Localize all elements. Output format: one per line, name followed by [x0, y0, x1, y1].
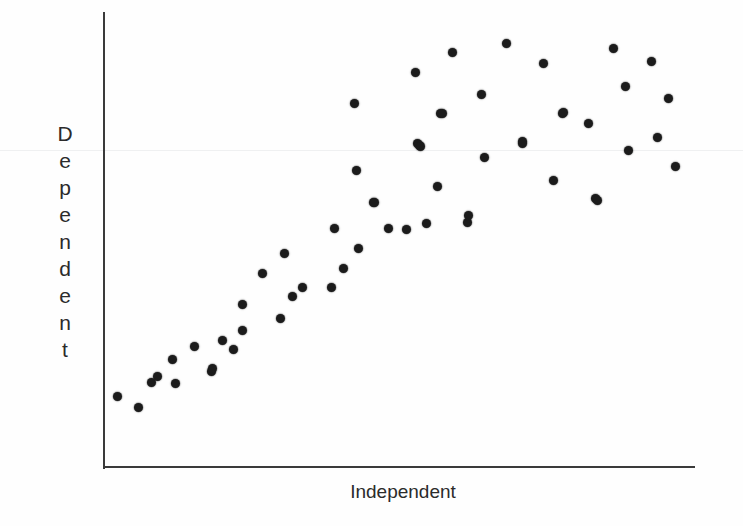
scatter-point	[463, 218, 472, 227]
scatter-point	[370, 198, 379, 207]
y-axis-label-letter: e	[48, 282, 82, 309]
y-axis-line	[103, 12, 105, 469]
scatter-point	[549, 176, 558, 185]
scatter-point	[653, 133, 662, 142]
scatter-point	[584, 119, 593, 128]
y-axis-label-letter: d	[48, 255, 82, 282]
scatter-point	[411, 68, 420, 77]
scatter-point	[416, 142, 425, 151]
scatter-point	[436, 109, 445, 118]
scatter-point	[559, 108, 568, 117]
scatter-point	[339, 264, 348, 273]
scatter-point	[422, 219, 431, 228]
scatter-point	[354, 244, 363, 253]
y-axis-label-letter: p	[48, 174, 82, 201]
scatter-point	[480, 153, 489, 162]
y-axis-label-letter: n	[48, 309, 82, 336]
scatter-point	[621, 82, 630, 91]
scatter-point	[327, 283, 336, 292]
scatter-point	[208, 364, 217, 373]
y-axis-label: D e p e n d e n t	[48, 120, 82, 363]
scatter-point	[464, 211, 473, 220]
scatter-point	[438, 109, 447, 118]
x-axis-label: Independent	[103, 481, 703, 503]
scatter-plot-figure: D e p e n d e n t Independent	[0, 0, 743, 526]
y-axis-label-letter: e	[48, 201, 82, 228]
scatter-point	[624, 146, 633, 155]
scatter-point	[288, 292, 297, 301]
scatter-point	[153, 372, 162, 381]
x-axis-line	[103, 466, 695, 468]
scatter-point	[591, 194, 600, 203]
scatter-point	[502, 39, 511, 48]
scatter-point	[647, 57, 656, 66]
y-axis-label-letter: e	[48, 147, 82, 174]
scatter-point	[609, 44, 618, 53]
scatter-point	[113, 392, 122, 401]
scatter-point	[276, 314, 285, 323]
scatter-point	[238, 300, 247, 309]
scatter-point	[415, 141, 424, 150]
scatter-point	[258, 269, 267, 278]
scatter-point	[352, 166, 361, 175]
scatter-point	[593, 196, 602, 205]
scatter-point	[330, 224, 339, 233]
scatter-point	[168, 355, 177, 364]
scatter-point	[369, 198, 378, 207]
y-axis-label-letter: D	[48, 120, 82, 147]
scatter-point	[413, 139, 422, 148]
scatter-point	[350, 99, 359, 108]
scatter-point	[384, 224, 393, 233]
scatter-point	[229, 345, 238, 354]
scatter-point	[298, 283, 307, 292]
scatter-point	[134, 403, 143, 412]
scatter-point	[433, 182, 442, 191]
scatter-point	[518, 137, 527, 146]
scatter-point	[402, 225, 411, 234]
scatter-point	[671, 162, 680, 171]
scatter-point	[171, 379, 180, 388]
scatter-point	[147, 378, 156, 387]
scatter-point	[190, 342, 199, 351]
scatter-point	[664, 94, 673, 103]
scatter-point	[558, 109, 567, 118]
scatter-points-layer	[0, 0, 743, 526]
scatter-point	[477, 90, 486, 99]
y-axis-label-letter: n	[48, 228, 82, 255]
scatter-point	[518, 139, 527, 148]
scatter-point	[207, 367, 216, 376]
scatter-point	[448, 48, 457, 57]
scatter-point	[539, 59, 548, 68]
scatter-point	[218, 336, 227, 345]
scatter-point	[280, 249, 289, 258]
scatter-point	[238, 326, 247, 335]
y-axis-label-letter: t	[48, 336, 82, 363]
scan-artifact-line	[0, 150, 743, 151]
